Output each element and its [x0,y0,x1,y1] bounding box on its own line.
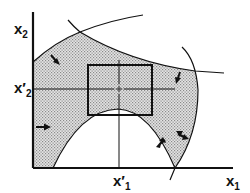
y-axis-label: x2 [14,20,28,40]
feasible-region [33,32,198,168]
x-tick-label-x1-prime: x′1 [113,172,131,192]
constraint-region-diagram: x2 x′2 x′1 x1 [0,0,250,193]
y-tick-label-x2-prime: x′2 [14,79,32,99]
x-axis-label: x1 [226,172,240,192]
